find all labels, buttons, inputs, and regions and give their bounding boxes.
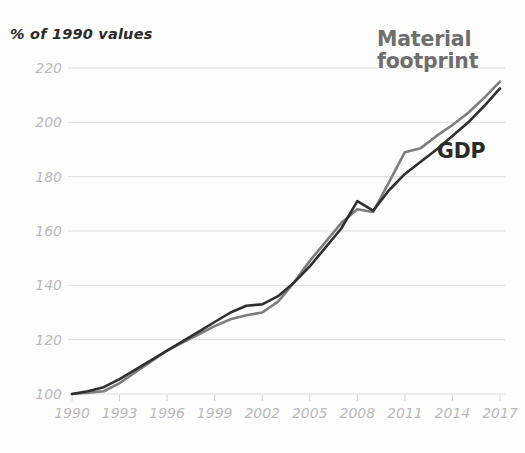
y-tick-labels-group: 100120140160180200220 [35, 60, 62, 402]
y-tick-label: 140 [35, 277, 62, 293]
y-tick-label: 220 [35, 60, 62, 76]
y-tick-label: 120 [35, 332, 62, 348]
series-line-gdp [72, 88, 500, 394]
y-tick-label: 200 [35, 114, 62, 130]
x-tick-label: 1993 [102, 405, 138, 421]
x-tick-label: 2008 [340, 405, 376, 421]
x-tick-label: 1990 [54, 405, 90, 421]
chart-container: % of 1990 values 100120140160180200220 1… [0, 0, 525, 453]
x-tick-label: 1999 [197, 405, 233, 421]
x-tick-marks-group [72, 395, 500, 401]
x-tick-label: 1996 [149, 405, 185, 421]
x-tick-label: 2017 [482, 405, 518, 421]
series-lines-group [72, 82, 500, 394]
x-tick-label: 2014 [435, 405, 471, 421]
y-tick-label: 180 [35, 169, 62, 185]
y-tick-label: 100 [35, 386, 62, 402]
x-tick-label: 2002 [244, 405, 280, 421]
x-tick-labels-group: 1990199319961999200220052008201120142017 [54, 405, 518, 421]
x-tick-label: 2005 [292, 405, 328, 421]
y-tick-label: 160 [35, 223, 62, 239]
series-label-gdp: GDP [437, 141, 485, 163]
series-label-material-footprint: Material footprint [377, 29, 478, 72]
gridlines-group [68, 68, 505, 394]
series-line-material-footprint [72, 82, 500, 394]
x-tick-label: 2011 [387, 405, 423, 421]
